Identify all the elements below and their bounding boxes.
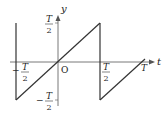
y-bottom-num: T <box>46 91 53 101</box>
x-right-num: T <box>103 62 110 72</box>
y-axis-arrow-icon <box>56 15 61 21</box>
y-top-den: 2 <box>47 26 52 35</box>
x-left-num: T <box>22 62 29 72</box>
x-right-den: 2 <box>104 74 109 83</box>
y-top-num: T <box>46 14 53 24</box>
x-left-den: 2 <box>23 74 28 83</box>
origin-label: O <box>61 65 68 75</box>
x-axis-label: t <box>157 56 162 67</box>
x-end-label: T <box>141 63 148 73</box>
y-bottom-den: 2 <box>47 103 52 112</box>
x-left-sign: − <box>12 65 20 75</box>
y-axis-label: y <box>60 3 67 14</box>
sawtooth-diagram: y t O T 2 − T 2 − T 2 T 2 T <box>0 0 167 120</box>
x-axis-arrow-icon <box>149 60 155 65</box>
y-bottom-sign: − <box>36 95 44 105</box>
